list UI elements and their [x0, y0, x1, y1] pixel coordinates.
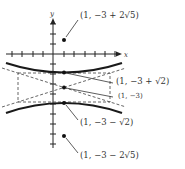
point-vertex-bottom [62, 101, 66, 105]
x-axis-label: x [124, 51, 128, 59]
label-vertex-bottom: (1, −3 − √2) [80, 117, 133, 127]
point-vertex-top [62, 71, 66, 75]
hyperbola-graph: x y (1, −3 + 2√5) (1, −3 + √2) (1, −3) (… [0, 0, 185, 169]
label-vertex-top: (1, −3 + √2) [116, 76, 169, 86]
point-focus-bottom [62, 134, 66, 138]
y-axis-arrow-icon [51, 18, 56, 24]
label-center: (1, −3) [118, 92, 143, 100]
label-focus-bottom: (1, −3 − 2√5) [80, 150, 139, 160]
x-axis-arrow-icon [116, 52, 122, 57]
label-focus-top: (1, −3 + 2√5) [80, 10, 139, 20]
point-focus-top [62, 38, 66, 42]
point-center [62, 86, 66, 90]
axes [6, 18, 122, 148]
y-axis-label: y [49, 10, 55, 18]
leader-lines [66, 20, 113, 153]
